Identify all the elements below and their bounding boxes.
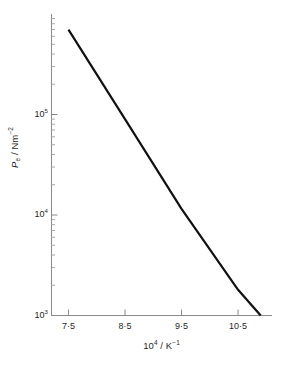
y-tick-exponent: 5: [45, 107, 48, 114]
y-axis-minor-ticks: [52, 19, 56, 286]
x-axis-tick-label: 9·5: [162, 321, 202, 331]
y-axis-tick-label: 103: [14, 310, 48, 320]
x-axis-base: 10: [143, 340, 154, 351]
x-axis-title: 104 / K−1: [51, 340, 272, 351]
x-axis-tick-label: 8·5: [105, 321, 145, 331]
y-tick-exponent: 4: [45, 207, 48, 214]
x-axis-tick-label: 7·5: [48, 321, 88, 331]
x-axis-tick-label: 10·5: [218, 321, 258, 331]
data-line: [68, 30, 260, 316]
x-axis-unit-exponent: −1: [172, 339, 180, 346]
y-axis-unit: Nm: [9, 135, 20, 150]
y-axis-tick-label: 104: [14, 209, 48, 219]
x-axis-major-ticks: [68, 310, 238, 316]
y-axis-symbol: P: [9, 162, 20, 168]
y-axis-symbol-subscript: e: [14, 158, 21, 162]
y-axis-tick-label: 105: [14, 109, 48, 119]
x-axis-separator: /: [158, 340, 166, 351]
y-tick-base: 10: [35, 310, 45, 320]
y-tick-exponent: 3: [45, 308, 48, 315]
y-tick-base: 10: [35, 109, 45, 119]
y-tick-base: 10: [35, 209, 45, 219]
y-axis-unit-exponent: −2: [7, 127, 14, 135]
data-series-group: [68, 30, 260, 316]
y-axis-separator: /: [9, 150, 20, 158]
chart-figure: Pe / Nm−2 104 / K−1 103104105 7·58·59·51…: [0, 0, 290, 367]
